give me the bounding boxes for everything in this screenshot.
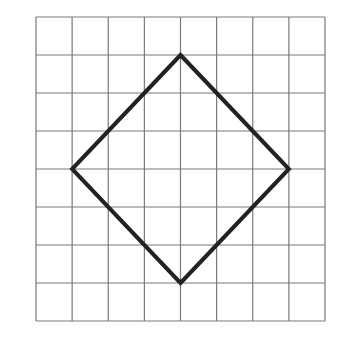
grid-diagram [0, 0, 339, 337]
